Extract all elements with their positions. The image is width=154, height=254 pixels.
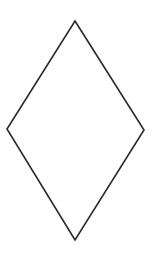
- diagram-canvas: [0, 0, 154, 254]
- rhombus-shape: [7, 21, 144, 240]
- rhombus-figure: [0, 0, 154, 254]
